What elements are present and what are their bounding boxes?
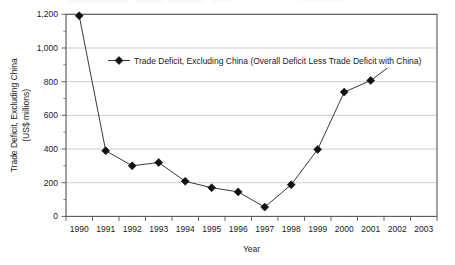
x-tick-label: 1992 <box>123 224 142 234</box>
x-tick-label: 2000 <box>335 224 354 234</box>
data-point-marker <box>102 147 110 155</box>
y-axis-title-line1: Trade Deficit, Excluding China <box>9 58 19 172</box>
x-tick-label: 1996 <box>229 224 248 234</box>
legend-label: Trade Deficit, Excluding China (Overall … <box>134 56 422 66</box>
y-tick-label: 600 <box>44 110 58 120</box>
y-tick-label: 1,200 <box>37 9 59 19</box>
x-tick-label: 1999 <box>308 224 327 234</box>
x-tick-label: 2002 <box>388 224 407 234</box>
x-tick-label: 1995 <box>202 224 221 234</box>
chart-legend[interactable]: Trade Deficit, Excluding China (Overall … <box>104 53 422 68</box>
y-axis-title: Trade Deficit, Excluding China (US$ mill… <box>9 58 31 172</box>
data-point-marker <box>314 145 322 153</box>
x-tick-label: 2003 <box>414 224 433 234</box>
x-tick-label: 1998 <box>282 224 301 234</box>
x-tick-label: 2001 <box>361 224 380 234</box>
data-point-marker <box>75 12 83 20</box>
x-tick-label: 1994 <box>176 224 195 234</box>
data-point-marker <box>340 88 348 96</box>
x-axis-tick-labels: 1990 1991 1992 1993 1994 1995 1996 1997 … <box>70 224 434 234</box>
data-point-marker <box>181 177 189 185</box>
data-point-marker <box>155 159 163 167</box>
y-tick-label: 1,000 <box>37 43 59 53</box>
top-cropped-text-smudge <box>68 0 344 3</box>
x-tick-label: 1991 <box>96 224 115 234</box>
data-point-marker <box>234 188 242 196</box>
series-polyline <box>79 16 390 207</box>
y-axis-ticks <box>62 14 67 216</box>
data-point-marker <box>208 184 216 192</box>
chart-container: 1,200 1,000 800 600 400 200 0 Trade Defi… <box>0 0 455 265</box>
y-axis-tick-labels: 1,200 1,000 800 600 400 200 0 <box>37 9 59 221</box>
y-tick-label: 800 <box>44 77 58 87</box>
x-axis-title: Year <box>243 244 260 254</box>
data-point-marker <box>367 77 375 85</box>
y-tick-label: 0 <box>53 211 58 221</box>
data-series-trade-deficit-excluding-china <box>75 12 390 211</box>
x-tick-label: 1997 <box>255 224 274 234</box>
y-tick-label: 200 <box>44 178 58 188</box>
x-tick-label: 1990 <box>70 224 89 234</box>
trade-deficit-line-chart: 1,200 1,000 800 600 400 200 0 Trade Defi… <box>0 0 455 265</box>
y-axis-title-line2: (US$ millions) <box>21 89 31 142</box>
data-point-marker <box>128 162 136 170</box>
x-axis-ticks <box>66 216 437 221</box>
gridlines <box>66 14 437 182</box>
y-tick-label: 400 <box>44 144 58 154</box>
x-tick-label: 1993 <box>149 224 168 234</box>
